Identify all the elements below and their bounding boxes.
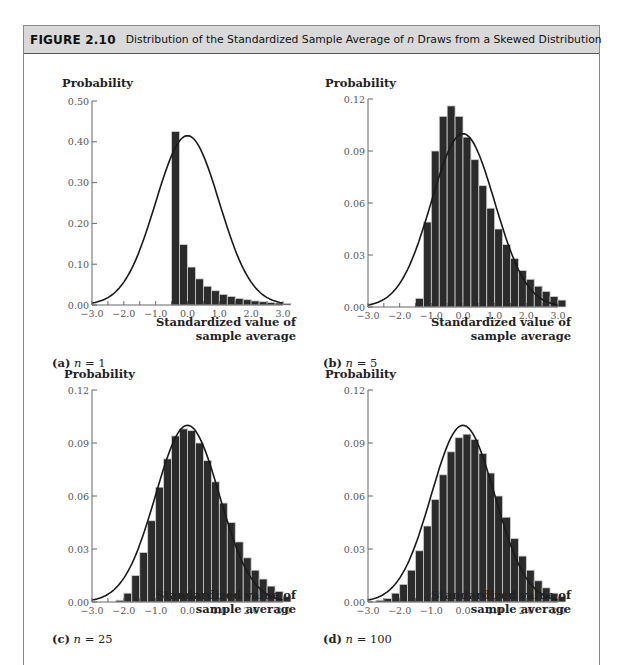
- histogram-bars: [376, 434, 566, 602]
- x-axis-label-line2: sample average: [196, 329, 296, 343]
- y-tick-label: 0.09: [344, 438, 365, 449]
- y-tick-label: 0.03: [344, 544, 365, 555]
- y-tick-label: 0.20: [68, 218, 89, 229]
- histogram-bar: [463, 137, 471, 307]
- histogram-bar: [455, 116, 463, 307]
- histogram-bar: [487, 208, 495, 307]
- x-axis-label-line1: Standardized value of: [431, 315, 571, 329]
- chart-panel-a: Probability 0.000.100.200.300.400.50−3.0…: [40, 65, 310, 345]
- histogram-bar: [479, 186, 487, 307]
- histogram-bars: [116, 429, 291, 602]
- y-tick-label: 0.06: [68, 491, 89, 502]
- histogram-bar: [243, 300, 251, 305]
- y-tick-label: 0.12: [344, 385, 365, 396]
- figure-number: FIGURE 2.10: [30, 33, 116, 47]
- x-axis-label-line1: Standardized value of: [156, 588, 296, 602]
- y-tick-label: 0.12: [344, 94, 365, 105]
- y-tick-label: 0.40: [68, 136, 89, 147]
- panel-caption: (d) n = 100: [323, 632, 392, 646]
- y-tick-label: 0.09: [68, 438, 89, 449]
- histogram-bar: [283, 303, 291, 305]
- histogram-bar: [495, 496, 503, 602]
- x-axis-label-line2: sample average: [196, 602, 296, 616]
- x-axis-label-line1: Standardized value of: [431, 588, 571, 602]
- y-tick-label: 0.12: [68, 385, 89, 396]
- histogram-bar: [463, 434, 471, 602]
- histogram-bar: [439, 475, 447, 602]
- caption-letter: (d): [323, 632, 342, 646]
- figure-title-part: Distribution of the Standardized Sample …: [126, 33, 408, 46]
- histogram-bar: [447, 106, 455, 307]
- histogram-bar: [479, 454, 487, 602]
- histogram-bars: [416, 106, 566, 307]
- histogram-bar: [195, 279, 203, 305]
- histogram-bar: [431, 500, 439, 602]
- y-tick-label: 0.03: [68, 544, 89, 555]
- histogram-bar: [188, 431, 196, 602]
- y-tick-label: 0.09: [344, 146, 365, 157]
- x-axis-label-line1: Standardized value of: [156, 315, 296, 329]
- histogram-chart-c: 0.000.030.060.090.12−3.0−2.0−1.00.01.02.…: [40, 360, 310, 620]
- histogram-bar: [471, 439, 479, 602]
- caption-letter: (c): [52, 632, 70, 646]
- figure-header: FIGURE 2.10 Distribution of the Standard…: [24, 26, 599, 54]
- histogram-bar: [172, 132, 180, 305]
- histogram-bar: [211, 291, 219, 305]
- histogram-bar: [503, 245, 511, 307]
- figure-title-part: Draws from a Skewed Distribution: [414, 33, 601, 46]
- y-tick-label: 0.06: [344, 198, 365, 209]
- histogram-bar: [180, 245, 188, 305]
- y-tick-label: 0.06: [344, 491, 365, 502]
- caption-value: = 100: [357, 632, 392, 646]
- histogram-bar: [188, 267, 196, 305]
- y-tick-label: 0.30: [68, 177, 89, 188]
- panel-caption: (c) n = 25: [52, 632, 113, 646]
- histogram-bar: [558, 300, 566, 307]
- histogram-bar: [235, 298, 243, 305]
- caption-value: = 25: [85, 632, 113, 646]
- histogram-bar: [172, 436, 180, 602]
- histogram-chart-b: 0.000.030.060.090.12−3.0−2.0−1.00.01.02.…: [315, 65, 585, 325]
- caption-var: n: [74, 632, 81, 646]
- x-axis-label: Standardized value ofsample average: [96, 588, 296, 616]
- histogram-bar: [423, 222, 431, 307]
- histogram-bar: [180, 429, 188, 602]
- histogram-bar: [431, 151, 439, 307]
- y-tick-label: 0.50: [68, 96, 89, 107]
- histogram-bar: [471, 160, 479, 307]
- x-axis-label: Standardized value ofsample average: [371, 315, 571, 343]
- histogram-bar: [219, 294, 227, 305]
- histogram-bar: [164, 459, 172, 602]
- histogram-bar: [156, 487, 164, 602]
- y-tick-label: 0.03: [344, 250, 365, 261]
- histogram-bar: [227, 296, 235, 305]
- figure-title: Distribution of the Standardized Sample …: [126, 33, 602, 46]
- x-axis-label: Standardized value ofsample average: [96, 315, 296, 343]
- histogram-chart-a: 0.000.100.200.300.400.50−3.0−2.0−1.00.01…: [40, 65, 310, 325]
- histogram-bar: [439, 116, 447, 307]
- histogram-bar: [251, 301, 259, 305]
- caption-var: n: [346, 632, 353, 646]
- chart-panel-d: Probability 0.000.030.060.090.12−3.0−2.0…: [315, 360, 585, 640]
- y-tick-label: 0.10: [68, 259, 89, 270]
- histogram-bar: [203, 286, 211, 305]
- histogram-bar: [211, 482, 219, 602]
- histogram-bar: [416, 298, 424, 307]
- x-axis-label-line2: sample average: [471, 329, 571, 343]
- histogram-bar: [195, 443, 203, 602]
- histogram-bar: [447, 452, 455, 602]
- x-axis-label-line2: sample average: [471, 602, 571, 616]
- histogram-bar: [495, 229, 503, 307]
- chart-panel-c: Probability 0.000.030.060.090.12−3.0−2.0…: [40, 360, 310, 640]
- x-axis-label: Standardized value ofsample average: [371, 588, 571, 616]
- histogram-bars: [172, 132, 291, 305]
- chart-panel-b: Probability 0.000.030.060.090.12−3.0−2.0…: [315, 65, 585, 345]
- histogram-chart-d: 0.000.030.060.090.12−3.0−2.0−1.00.01.02.…: [315, 360, 585, 620]
- histogram-bar: [455, 438, 463, 602]
- histogram-bar: [203, 461, 211, 602]
